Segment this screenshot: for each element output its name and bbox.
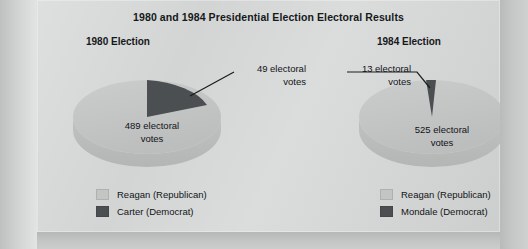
left-inner-line1: 489 electoral — [97, 119, 207, 132]
legend-item: Reagan (Republican) — [380, 186, 491, 203]
left-callout-label: 49 electoral votes — [234, 62, 306, 88]
right-chart-subtitle: 1984 Election — [377, 36, 441, 47]
left-pie-svg — [62, 58, 247, 173]
right-legend: Reagan (Republican) Mondale (Democrat) — [380, 186, 491, 220]
panel-right-margin — [500, 0, 528, 249]
legend-swatch-democrat-icon — [96, 206, 109, 217]
left-pie-chart — [62, 58, 247, 173]
right-inner-line2: votes — [387, 136, 497, 149]
figure-root: 1980 and 1984 Presidential Election Elec… — [0, 0, 528, 249]
left-callout-line2: votes — [234, 75, 306, 88]
legend-label-republican: Reagan (Republican) — [401, 189, 491, 200]
right-inner-line1: 525 electoral — [387, 123, 497, 136]
legend-swatch-democrat-icon — [380, 206, 393, 217]
legend-label-democrat: Carter (Democrat) — [117, 206, 194, 217]
right-inner-label: 525 electoral votes — [387, 123, 497, 149]
left-callout-line1: 49 electoral — [234, 62, 306, 75]
left-callout-leader-line — [190, 72, 234, 96]
left-inner-label: 489 electoral votes — [97, 119, 207, 145]
page-title: 1980 and 1984 Presidential Election Elec… — [37, 11, 500, 23]
left-legend: Reagan (Republican) Carter (Democrat) — [96, 186, 207, 220]
left-chart-subtitle: 1980 Election — [86, 36, 150, 47]
right-callout-label: 13 electoral votes — [339, 62, 411, 88]
legend-item: Reagan (Republican) — [96, 186, 207, 203]
panel-bottom-margin — [37, 232, 500, 249]
legend-item: Carter (Democrat) — [96, 203, 207, 220]
left-inner-line2: votes — [97, 132, 207, 145]
legend-item: Mondale (Democrat) — [380, 203, 491, 220]
legend-swatch-republican-icon — [96, 189, 109, 200]
right-callout-line1: 13 electoral — [339, 62, 411, 75]
right-callout-line2: votes — [339, 75, 411, 88]
chart-panel: 1980 and 1984 Presidential Election Elec… — [37, 0, 500, 232]
legend-swatch-republican-icon — [380, 189, 393, 200]
legend-label-democrat: Mondale (Democrat) — [401, 206, 488, 217]
legend-label-republican: Reagan (Republican) — [117, 189, 207, 200]
